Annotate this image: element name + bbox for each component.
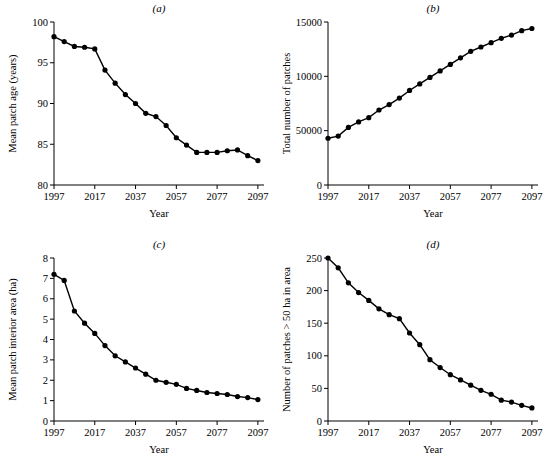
- data-point: [92, 46, 97, 51]
- data-point: [113, 81, 118, 86]
- panel-title: (d): [427, 238, 440, 251]
- data-point: [123, 92, 128, 97]
- chart-svg-b: 0500001000015000199720172037205720772097…: [274, 0, 548, 236]
- data-point: [194, 150, 199, 155]
- data-point: [255, 397, 260, 402]
- panel-title: (b): [427, 2, 440, 15]
- data-point: [468, 49, 473, 54]
- y-axis-title: Mean patch interior area (ha): [7, 278, 19, 401]
- x-tick-label: 2017: [358, 427, 379, 438]
- figure-panel-grid: 80859095100199720172037205720772097YearM…: [0, 0, 548, 473]
- data-point: [174, 382, 179, 387]
- y-axis-title: Total number of patches: [281, 53, 292, 155]
- data-point: [133, 365, 138, 370]
- data-point: [255, 158, 260, 163]
- x-tick-label: 2097: [521, 427, 542, 438]
- data-point: [72, 308, 77, 313]
- x-tick-label: 2097: [247, 191, 268, 202]
- data-point: [245, 153, 250, 158]
- data-point: [356, 290, 361, 295]
- data-point: [387, 312, 392, 317]
- data-point: [336, 265, 341, 270]
- data-point: [113, 353, 118, 358]
- chart-panel-a: 80859095100199720172037205720772097YearM…: [0, 0, 274, 236]
- y-tick-label: 1: [43, 395, 48, 406]
- x-tick-label: 2037: [125, 427, 146, 438]
- chart-svg-a: 80859095100199720172037205720772097YearM…: [0, 0, 274, 236]
- y-tick-label: 100: [306, 350, 322, 361]
- data-point: [438, 68, 443, 73]
- data-point: [225, 392, 230, 397]
- data-point: [143, 111, 148, 116]
- y-tick-label: 0: [317, 180, 322, 191]
- data-point: [519, 403, 524, 408]
- series-line: [328, 258, 532, 408]
- x-tick-label: 2077: [207, 191, 228, 202]
- data-point: [427, 357, 432, 362]
- y-tick-label: 95: [38, 57, 49, 68]
- data-point: [225, 148, 230, 153]
- data-point: [489, 40, 494, 45]
- x-tick-label: 2017: [84, 427, 105, 438]
- y-axis-title: Mean patch age (years): [7, 54, 19, 153]
- y-tick-label: 200: [306, 285, 322, 296]
- data-point: [204, 390, 209, 395]
- y-tick-label: 7: [43, 273, 48, 284]
- data-point: [478, 388, 483, 393]
- y-tick-label: 250: [306, 253, 322, 264]
- data-point: [417, 342, 422, 347]
- data-point: [519, 28, 524, 33]
- data-point: [51, 272, 56, 277]
- data-point: [82, 45, 87, 50]
- data-point: [346, 280, 351, 285]
- data-point: [62, 39, 67, 44]
- y-tick-label: 150: [306, 318, 322, 329]
- data-point: [366, 115, 371, 120]
- x-tick-label: 2057: [440, 427, 461, 438]
- x-axis-title: Year: [423, 444, 443, 455]
- data-point: [366, 298, 371, 303]
- data-point: [407, 330, 412, 335]
- data-point: [153, 378, 158, 383]
- data-point: [204, 150, 209, 155]
- data-point: [346, 125, 351, 130]
- y-tick-label: 5: [43, 314, 48, 325]
- data-point: [102, 343, 107, 348]
- data-point: [325, 136, 330, 141]
- data-point: [164, 380, 169, 385]
- x-tick-label: 2037: [399, 191, 420, 202]
- data-point: [82, 321, 87, 326]
- data-point: [325, 255, 330, 260]
- data-point: [184, 142, 189, 147]
- y-tick-label: 8: [43, 253, 48, 264]
- data-point: [215, 391, 220, 396]
- panel-title: (a): [153, 2, 166, 15]
- data-point: [356, 119, 361, 124]
- data-point: [509, 32, 514, 37]
- x-axis-title: Year: [149, 208, 169, 219]
- data-point: [529, 405, 534, 410]
- x-tick-label: 1997: [318, 427, 339, 438]
- y-tick-label: 2: [43, 375, 48, 386]
- y-tick-label: 80: [38, 180, 49, 191]
- x-tick-label: 1997: [44, 191, 65, 202]
- y-tick-label: 50000: [296, 125, 322, 136]
- data-point: [489, 392, 494, 397]
- chart-svg-d: 050100150200250199720172037205720772097Y…: [274, 236, 548, 472]
- x-tick-label: 2057: [440, 191, 461, 202]
- data-point: [235, 394, 240, 399]
- x-tick-label: 1997: [318, 191, 339, 202]
- data-point: [387, 102, 392, 107]
- y-tick-label: 85: [38, 139, 49, 150]
- data-point: [62, 278, 67, 283]
- chart-panel-c: 012345678199720172037205720772097YearMea…: [0, 236, 274, 472]
- x-tick-label: 2077: [481, 427, 502, 438]
- data-point: [143, 372, 148, 377]
- data-point: [336, 134, 341, 139]
- data-point: [215, 150, 220, 155]
- x-axis-title: Year: [423, 208, 443, 219]
- data-point: [174, 135, 179, 140]
- x-tick-label: 2057: [166, 191, 187, 202]
- data-point: [72, 44, 77, 49]
- data-point: [194, 388, 199, 393]
